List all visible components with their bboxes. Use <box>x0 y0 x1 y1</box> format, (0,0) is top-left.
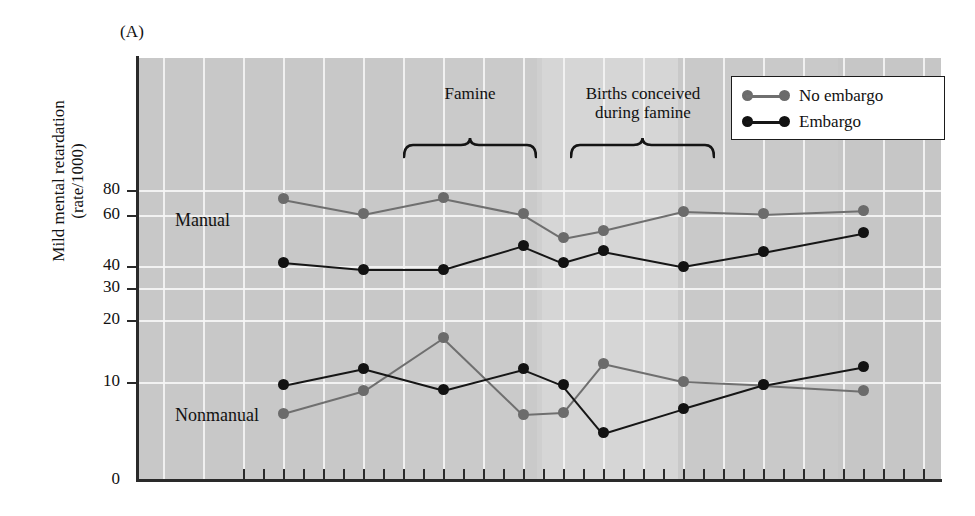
legend: No embargo Embargo <box>731 76 945 140</box>
births-conceived-text-line2: during famine <box>595 103 691 122</box>
x-axis-tick <box>603 469 605 480</box>
legend-item-no-embargo[interactable]: No embargo <box>742 83 934 109</box>
nonmanual-no-embargo-point[interactable] <box>858 385 869 396</box>
manual-no-embargo-point[interactable] <box>358 208 369 219</box>
y-axis-tick <box>127 266 138 268</box>
x-axis-tick <box>563 469 565 480</box>
x-axis-tick <box>843 469 845 480</box>
x-axis-tick <box>803 469 805 480</box>
births-conceived-text-line1: Births conceived <box>586 84 701 103</box>
manual-embargo-point[interactable] <box>278 257 289 268</box>
manual-embargo-point[interactable] <box>558 257 569 268</box>
manual-embargo-point[interactable] <box>758 246 769 257</box>
y-axis-tick <box>127 320 138 322</box>
manual-no-embargo-point[interactable] <box>518 208 529 219</box>
nonmanual-embargo-point[interactable] <box>598 427 609 438</box>
y-axis-tick-label: 40 <box>60 255 120 275</box>
y-axis-tick-label: 0 <box>60 469 120 489</box>
nonmanual-embargo-point[interactable] <box>758 379 769 390</box>
x-axis-tick <box>643 469 645 480</box>
famine-text: Famine <box>445 84 496 103</box>
nonmanual-embargo-point[interactable] <box>858 361 869 372</box>
x-axis-tick <box>583 469 585 480</box>
y-axis-tick <box>127 215 138 217</box>
x-axis-tick <box>823 469 825 480</box>
births-conceived-annotation-label: Births conceivedduring famine <box>556 84 730 122</box>
nonmanual-embargo-point[interactable] <box>278 379 289 390</box>
x-axis-tick <box>283 469 285 480</box>
nonmanual-embargo-point[interactable] <box>558 379 569 390</box>
panel-letter: (A) <box>120 22 144 42</box>
x-axis-tick <box>543 469 545 480</box>
manual-embargo-point[interactable] <box>858 227 869 238</box>
famine-annotation-label: Famine <box>403 84 537 103</box>
gridline-horizontal <box>138 382 941 384</box>
nonmanual-embargo-point[interactable] <box>438 384 449 395</box>
gridline-horizontal <box>138 320 941 322</box>
x-axis-tick <box>483 469 485 480</box>
legend-marker-embargo <box>742 116 790 128</box>
manual-no-embargo-point[interactable] <box>598 225 609 236</box>
manual-embargo-point[interactable] <box>598 245 609 256</box>
x-axis-tick <box>883 469 885 480</box>
x-axis-tick <box>443 469 445 480</box>
y-axis-tick <box>127 288 138 290</box>
y-axis-tick <box>127 382 138 384</box>
nonmanual-no-embargo-point[interactable] <box>558 407 569 418</box>
manual-embargo-point[interactable] <box>518 240 529 251</box>
x-axis-tick <box>703 469 705 480</box>
y-axis-tick-label: 80 <box>60 179 120 199</box>
manual-no-embargo-point[interactable] <box>678 206 689 217</box>
gridline-horizontal <box>138 266 941 268</box>
x-axis-tick <box>763 469 765 480</box>
manual-embargo-segment <box>363 269 443 271</box>
nonmanual-no-embargo-point[interactable] <box>438 332 449 343</box>
x-axis-tick <box>323 469 325 480</box>
nonmanual-no-embargo-point[interactable] <box>518 409 529 420</box>
gridline-vertical <box>483 58 485 480</box>
x-axis-tick <box>863 469 865 480</box>
nonmanual-no-embargo-point[interactable] <box>678 376 689 387</box>
manual-no-embargo-point[interactable] <box>558 232 569 243</box>
nonmanual-embargo-point[interactable] <box>678 403 689 414</box>
nonmanual-no-embargo-point[interactable] <box>278 408 289 419</box>
x-axis-tick <box>343 469 345 480</box>
x-axis-tick <box>403 469 405 480</box>
x-axis-tick <box>723 469 725 480</box>
x-axis-tick <box>783 469 785 480</box>
x-axis-tick <box>523 469 525 480</box>
manual-no-embargo-point[interactable] <box>278 193 289 204</box>
legend-marker-no-embargo <box>742 90 790 102</box>
nonmanual-no-embargo-point[interactable] <box>358 385 369 396</box>
y-axis-tick <box>127 190 138 192</box>
x-axis-tick <box>743 469 745 480</box>
x-axis-tick <box>683 469 685 480</box>
manual-embargo-point[interactable] <box>438 264 449 275</box>
y-axis-tick-label: 60 <box>60 204 120 224</box>
gridline-horizontal <box>138 288 941 290</box>
figure-root: (A) Mild mental retardation (rate/1000) … <box>0 0 975 516</box>
legend-item-embargo[interactable]: Embargo <box>742 109 934 135</box>
x-axis-tick <box>503 469 505 480</box>
manual-embargo-point[interactable] <box>678 261 689 272</box>
y-axis-tick-label: 30 <box>60 277 120 297</box>
x-axis-line <box>136 479 942 482</box>
x-axis-tick <box>463 469 465 480</box>
y-axis-line <box>136 56 139 482</box>
y-axis-tick-label: 20 <box>60 309 120 329</box>
manual-no-embargo-point[interactable] <box>858 205 869 216</box>
manual-no-embargo-point[interactable] <box>438 192 449 203</box>
legend-label-no-embargo: No embargo <box>799 86 883 106</box>
legend-label-embargo: Embargo <box>799 112 861 132</box>
gridline-vertical <box>323 58 325 480</box>
manual-no-embargo-point[interactable] <box>758 208 769 219</box>
nonmanual-embargo-point[interactable] <box>518 363 529 374</box>
manual-embargo-point[interactable] <box>358 264 369 275</box>
births-conceived-bracket <box>570 137 715 159</box>
x-axis-tick <box>903 469 905 480</box>
x-axis-tick <box>423 469 425 480</box>
x-axis-tick <box>263 469 265 480</box>
nonmanual-embargo-point[interactable] <box>358 363 369 374</box>
nonmanual-no-embargo-point[interactable] <box>598 358 609 369</box>
group-label-manual: Manual <box>175 210 230 231</box>
